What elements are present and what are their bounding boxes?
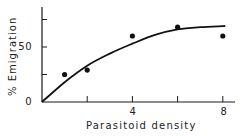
axis-ticks	[42, 20, 223, 103]
x-tick-label-4: 4	[123, 107, 143, 117]
y-axis-label: % Emigration	[8, 17, 18, 96]
data-point-marker	[220, 33, 225, 38]
data-point-marker	[85, 68, 90, 73]
y-tick-label-0: 0	[12, 97, 32, 107]
x-axis-label: Parasitoid density	[86, 121, 197, 131]
axes	[42, 7, 235, 102]
data-point-marker	[130, 33, 135, 38]
data-point-marker	[175, 25, 180, 30]
x-tick-label-8: 8	[214, 107, 234, 117]
data-points	[62, 25, 225, 78]
data-point-marker	[62, 72, 67, 77]
